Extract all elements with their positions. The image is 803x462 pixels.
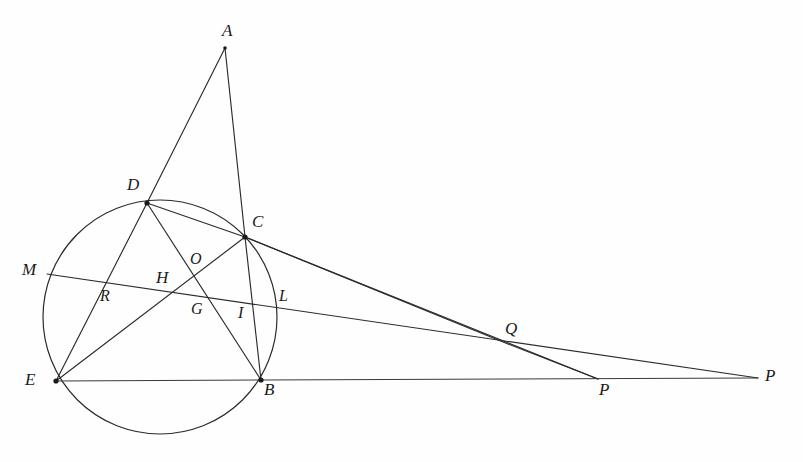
line-c-i-p xyxy=(245,237,598,379)
line-a-d-e xyxy=(56,48,225,381)
line-e-c xyxy=(56,237,245,381)
point-label-b: B xyxy=(264,381,274,398)
line-m-l-transversal xyxy=(47,274,758,378)
point-label-p-far: P xyxy=(765,367,775,384)
vertex-dot-c xyxy=(242,234,247,239)
point-label-q: Q xyxy=(505,320,517,337)
line-e-b-baseline xyxy=(56,378,758,381)
point-label-i: I xyxy=(238,305,243,321)
point-label-h: H xyxy=(156,269,168,286)
geometry-drawing xyxy=(0,0,803,462)
point-label-a: A xyxy=(222,22,232,39)
point-label-p-baseline: P xyxy=(599,381,609,398)
vertex-dot-d xyxy=(144,200,149,205)
vertex-dot-a xyxy=(223,46,227,50)
vertex-dot-b xyxy=(258,377,263,382)
point-label-d: D xyxy=(127,176,139,193)
point-label-m: M xyxy=(22,261,36,278)
point-label-l: L xyxy=(279,288,288,304)
vertex-dot-e xyxy=(53,378,58,383)
line-d-c-q-p xyxy=(147,203,598,379)
point-label-o: O xyxy=(190,251,202,267)
point-label-g: G xyxy=(191,301,203,317)
geometry-diagram-canvas: A D C M O R H G L I E B Q P P xyxy=(0,0,803,462)
point-label-r: R xyxy=(100,288,110,304)
point-label-e: E xyxy=(25,371,35,388)
point-label-c: C xyxy=(252,213,263,230)
